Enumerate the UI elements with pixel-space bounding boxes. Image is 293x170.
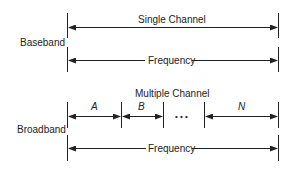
- channel-b-label: B: [138, 101, 145, 112]
- channel-a-label: A: [91, 101, 98, 112]
- broadband-label: Broadband: [17, 124, 66, 135]
- baseband-frequency-label: Frequency: [148, 55, 195, 66]
- diagram-lines: [0, 0, 293, 170]
- single-channel-label: Single Channel: [138, 14, 206, 25]
- channel-n-label: N: [238, 101, 245, 112]
- broadband-frequency-label: Frequency: [148, 143, 195, 154]
- multiple-channel-label: Multiple Channel: [135, 88, 210, 99]
- baseband-label: Baseband: [20, 37, 65, 48]
- ellipsis: • • •: [175, 111, 188, 122]
